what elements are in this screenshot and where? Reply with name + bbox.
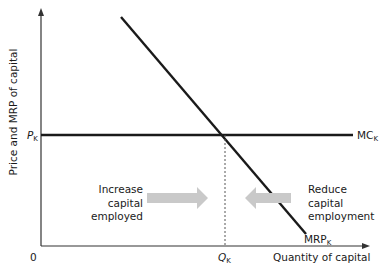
increase-text-line1: Increase	[80, 183, 143, 197]
qk-label-sub: K	[226, 257, 231, 265]
origin-label: 0	[30, 251, 37, 263]
x-axis-label: Quantity of capital	[273, 251, 370, 263]
increase-text: Increase capital employed	[80, 183, 143, 224]
x-axis-arrowhead	[362, 243, 370, 249]
mc-label-text: MC	[357, 129, 373, 141]
qk-label: QK	[218, 251, 231, 267]
mrp-label-text: MRP	[304, 233, 327, 245]
increase-text-line3: employed	[80, 210, 143, 224]
reduce-text: Reduce capital employment	[308, 183, 374, 224]
mc-label: MCK	[357, 129, 378, 145]
y-axis-arrowhead	[38, 8, 44, 16]
increase-text-line2: capital	[80, 197, 143, 211]
mrp-label: MRPK	[304, 233, 331, 249]
price-label: PK	[27, 129, 38, 145]
y-axis-label: Price and MRP of capital	[7, 47, 19, 177]
mrp-label-sub: K	[327, 239, 332, 247]
increase-arrow-icon	[147, 187, 208, 209]
reduce-text-line2: capital	[308, 197, 374, 211]
price-label-sub: K	[33, 135, 38, 143]
mc-label-sub: K	[373, 135, 378, 143]
reduce-text-line3: employment	[308, 210, 374, 224]
reduce-text-line1: Reduce	[308, 183, 374, 197]
diagram-canvas	[0, 0, 390, 270]
